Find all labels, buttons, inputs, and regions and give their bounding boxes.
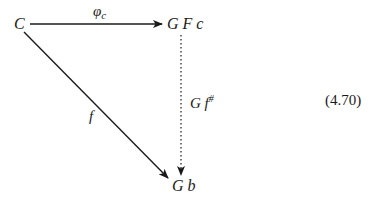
sharp-superscript: # [209, 93, 215, 104]
node-GFc: G F c [167, 15, 203, 32]
phi-subscript: c [101, 9, 106, 21]
node-C: C [14, 15, 25, 32]
arrow-Gf-sharp-label: G f# [190, 93, 215, 111]
equation-number: (4.70) [325, 92, 361, 109]
arrow-f [24, 32, 168, 178]
node-Gb: G b [172, 177, 196, 194]
arrow-phi-c-label: φc [93, 3, 106, 21]
arrow-f-label: f [89, 108, 95, 124]
phi-symbol: φ [93, 3, 101, 19]
commutative-diagram: C G F c G b φc f G f# (4.70) [0, 0, 372, 199]
Gf-text: G f [190, 95, 211, 111]
